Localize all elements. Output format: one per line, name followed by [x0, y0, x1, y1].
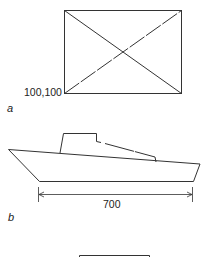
- cabin-stern: [155, 157, 156, 162]
- figure: 100,100 a 700 b: [0, 0, 201, 257]
- panel-a-label: a: [7, 102, 13, 114]
- origin-label: 100,100: [24, 86, 62, 98]
- panel-a-rectangle: [65, 11, 182, 94]
- dimension-label: 700: [103, 198, 121, 210]
- panel-b-label: b: [8, 211, 14, 223]
- boat-outline: [9, 134, 201, 182]
- cabin: [60, 134, 101, 154]
- cabin-slope: [105, 144, 155, 158]
- hull: [9, 150, 201, 182]
